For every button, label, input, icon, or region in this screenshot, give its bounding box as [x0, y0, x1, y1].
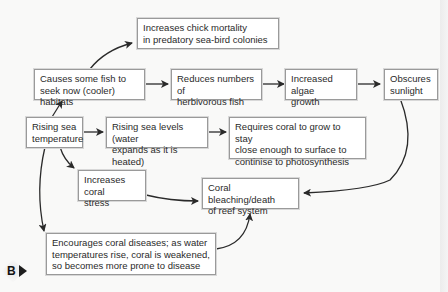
arrow-temp-to-stress [60, 147, 74, 168]
node-algae-growth: Increased algae growth [285, 69, 357, 100]
marker-letter: B [7, 264, 16, 278]
node-coral-bleaching: Coral bleaching/death of reef system [202, 178, 299, 209]
arrow-fish-to-chick [90, 43, 132, 69]
node-rising-sea-levels: Rising sea levels (water expands as it i… [106, 117, 208, 148]
arrow-diseases-to-bleaching [216, 214, 250, 249]
node-fish-habitats: Causes some fish to seek now (cooler) ha… [34, 69, 145, 100]
arrow-stress-to-bleaching [146, 195, 198, 201]
node-rising-temperature: Rising sea temperature [26, 117, 83, 148]
node-coral-stress: Increases coral stress [78, 170, 146, 201]
node-coral-grow: Requires coral to grow to stay close eno… [229, 117, 366, 159]
node-chick-mortality: Increases chick mortality in predatory s… [137, 18, 279, 49]
play-triangle-icon [19, 265, 27, 277]
node-coral-diseases: Encourages coral diseases; as water temp… [46, 233, 216, 275]
arrow-temp-to-diseases [40, 147, 45, 231]
node-obscures-sunlight: Obscures sunlight [384, 69, 438, 100]
section-marker: B [2, 260, 32, 282]
node-herbivorous-fish: Reduces numbers of herbivorous fish [171, 69, 262, 100]
